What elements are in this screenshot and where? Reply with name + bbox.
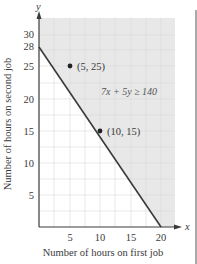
x-axis-symbol: x [184, 221, 190, 232]
y-tick-30: 30 [24, 29, 35, 40]
y-axis-symbol: y [35, 1, 41, 12]
y-tick-20: 20 [24, 94, 35, 105]
point-5-25 [68, 64, 73, 69]
x-tick-labels: 5 10 15 20 [67, 232, 166, 243]
y-tick-28: 28 [24, 41, 35, 52]
y-tick-10: 10 [24, 158, 35, 169]
x-axis-arrow-icon [174, 225, 182, 230]
x-axis-title: Number of hours on first job [43, 247, 163, 258]
point-10-15-label: (10, 15) [107, 126, 141, 138]
point-10-15 [98, 129, 103, 134]
x-tick-10: 10 [95, 232, 106, 243]
inequality-graph: y x 30 28 25 20 15 10 5 5 10 15 20 Numbe… [0, 0, 197, 264]
point-5-25-label: (5, 25) [77, 61, 105, 73]
y-axis-arrow-icon [37, 11, 42, 19]
y-tick-25: 25 [24, 61, 35, 72]
y-tick-15: 15 [24, 126, 35, 137]
x-tick-5: 5 [67, 232, 72, 243]
x-tick-15: 15 [126, 232, 137, 243]
x-tick-20: 20 [156, 232, 167, 243]
inequality-label: 7x + 5y ≥ 140 [101, 86, 157, 97]
y-tick-labels: 30 28 25 20 15 10 5 [24, 29, 35, 201]
y-tick-5: 5 [29, 190, 34, 201]
y-axis-title: Number of hours on second job [2, 58, 13, 191]
